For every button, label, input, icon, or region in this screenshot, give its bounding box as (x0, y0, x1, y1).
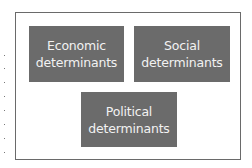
dot (4, 138, 5, 139)
political-determinants-box: Political determinants (81, 92, 177, 147)
dot (4, 124, 5, 125)
dot (4, 96, 5, 97)
scan-artifact-dots (4, 55, 6, 155)
dot (4, 68, 5, 69)
dot (4, 152, 5, 153)
box-label-line1: Economic (47, 37, 106, 54)
dot (4, 82, 5, 83)
box-label-line1: Political (106, 103, 152, 120)
social-determinants-box: Social determinants (134, 26, 230, 82)
dot (4, 55, 5, 56)
box-label-line2: determinants (88, 120, 169, 137)
box-label-line1: Social (164, 37, 200, 54)
economic-determinants-box: Economic determinants (29, 26, 124, 82)
dot (4, 110, 5, 111)
box-label-line2: determinants (141, 54, 222, 71)
box-label-line2: determinants (36, 54, 117, 71)
